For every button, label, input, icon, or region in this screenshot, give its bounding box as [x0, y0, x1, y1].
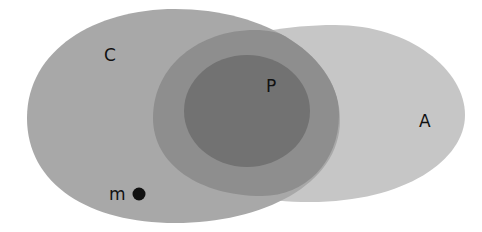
set-p-label: P [266, 76, 276, 96]
set-a-label: A [419, 111, 431, 131]
set-p-region [184, 55, 310, 167]
euler-diagram: C P A m [0, 0, 482, 232]
point-m-dot [133, 188, 146, 201]
set-c-label: C [104, 45, 116, 65]
point-m-label: m [109, 184, 126, 204]
